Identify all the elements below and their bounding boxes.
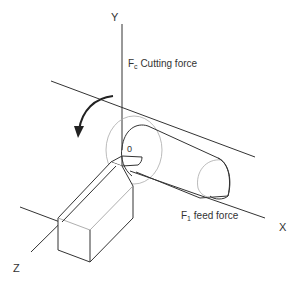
- cylinder-end-rim: [210, 158, 230, 199]
- z-axis-label: Z: [13, 263, 20, 274]
- tool-shank: [58, 162, 133, 262]
- lathe-force-diagram: [0, 0, 301, 284]
- feed-force-label: F1 feed force: [181, 211, 238, 221]
- rotation-arrowhead-icon: [74, 126, 84, 138]
- rotation-arrow: [79, 96, 113, 130]
- feed-force-subscript: 1: [187, 215, 191, 222]
- cutting-force-subscript: c: [134, 63, 138, 70]
- origin-label: 0: [127, 145, 132, 154]
- cutting-force-text: Cutting force: [138, 58, 197, 69]
- cylinder-end: [198, 160, 222, 197]
- x-axis-label: X: [279, 222, 286, 233]
- feed-force-text: feed force: [191, 210, 238, 221]
- cutting-force-label: Fc Cutting force: [128, 59, 197, 69]
- y-axis-label: Y: [111, 12, 118, 23]
